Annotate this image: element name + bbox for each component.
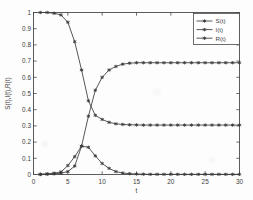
y-tick-label: 0: [27, 171, 31, 178]
y-tick-label: 0.7: [22, 57, 31, 64]
x-tick-label: 30: [236, 178, 244, 185]
x-tick-label: 0: [32, 178, 36, 185]
series-marker-st: [80, 68, 83, 71]
x-tick-label: 5: [66, 178, 70, 185]
x-tick-label: 25: [202, 178, 210, 185]
y-tick-label: 0.3: [22, 122, 31, 129]
y-tick-label: 0.8: [22, 41, 31, 48]
series-marker-rt: [87, 114, 90, 117]
x-tick-label: 20: [167, 178, 175, 185]
figure-canvas: 05101520253000.10.20.30.40.50.60.70.80.9…: [0, 0, 253, 200]
x-tick-label: 10: [99, 178, 107, 185]
y-tick-label: 0.9: [22, 25, 31, 32]
y-tick-label: 1: [27, 9, 31, 16]
legend-label-1: I(t): [216, 26, 224, 33]
y-tick-label: 0.1: [22, 155, 31, 162]
x-tick-label: 15: [133, 178, 141, 185]
x-axis-label: t: [136, 187, 138, 194]
y-tick-label: 0.6: [22, 74, 31, 81]
y-tick-label: 0.2: [22, 138, 31, 145]
series-marker-st: [73, 40, 76, 43]
sir-line-chart: 05101520253000.10.20.30.40.50.60.70.80.9…: [0, 0, 253, 200]
series-marker-st: [87, 99, 90, 102]
series-marker-rt: [94, 89, 97, 92]
legend-label-2: R(t): [216, 35, 226, 42]
y-axis-label: S(t),I(t),R(t): [4, 77, 12, 109]
y-tick-label: 0.4: [22, 106, 31, 113]
series-line-rt: [40, 63, 239, 175]
legend-label-0: S(t): [216, 17, 226, 24]
y-tick-label: 0.5: [22, 90, 31, 97]
